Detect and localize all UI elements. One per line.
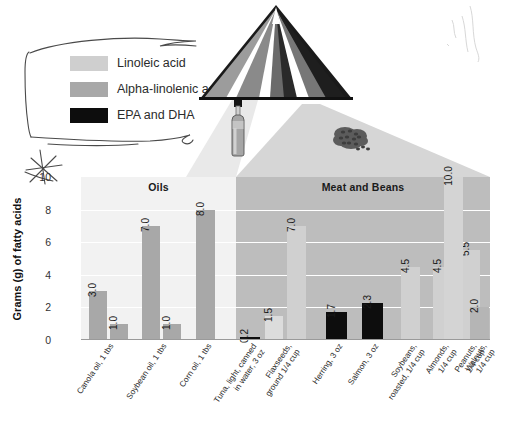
- x-axis-baseline: [81, 339, 490, 340]
- bar: 3.0: [89, 291, 107, 340]
- x-axis-label: Corn oil, 1 tbs: [178, 342, 214, 389]
- bar: 10.0: [444, 177, 463, 340]
- bar-value-label: 3.0: [87, 283, 98, 297]
- bar-value-label: 1.5: [263, 308, 274, 322]
- x-axis-label: Canola oil, 1 tbs: [75, 342, 116, 396]
- bar-value-label: 1.0: [161, 316, 172, 330]
- bar: 1.0: [163, 324, 181, 340]
- bar: 1.7: [326, 312, 347, 340]
- x-axis-label: Salmon, 3 oz: [346, 342, 381, 387]
- bar-value-label: 7.0: [286, 218, 297, 232]
- food-guide-pyramid-icon: [196, 2, 356, 107]
- y-tick-6: 6: [31, 236, 51, 248]
- x-axis-label: Herring, 3 oz: [311, 342, 345, 386]
- bar-value-label: 4.5: [400, 259, 411, 273]
- y-tick-2: 2: [31, 301, 51, 313]
- bar: 8.0: [196, 210, 215, 340]
- bar-value-label: 0.2: [239, 329, 250, 343]
- x-axis-label: Soybean oil, 1 tbs: [125, 342, 169, 401]
- bar-value-label: 7.0: [140, 218, 151, 232]
- bar-value-label: 4.5: [432, 259, 443, 273]
- seeds-cluster-icon: [325, 122, 385, 156]
- bar: 4.5: [401, 267, 420, 340]
- plot-area: Oils Meat and Beans 3.01.07.01.08.00.21.…: [81, 177, 490, 340]
- y-tick-0: 0: [31, 334, 51, 346]
- bar: 7.0: [287, 226, 306, 340]
- x-axis-label: Soybeans, roasted, 1/4 cup: [378, 342, 427, 401]
- y-tick-10: 10: [31, 171, 51, 183]
- x-axis-category-labels: Canola oil, 1 tbsSoybean oil, 1 tbsCorn …: [81, 342, 490, 421]
- figure-root: Linoleic acid Alpha-linolenic acid EPA a…: [0, 0, 506, 421]
- y-axis: Grams (g) of fatty acids 10 8 6 4 2 0: [0, 177, 81, 341]
- y-axis-title: Grams (g) of fatty acids: [11, 184, 23, 334]
- bar-value-label: 1.0: [108, 316, 119, 330]
- y-tick-4: 4: [31, 269, 51, 281]
- bar: 1.0: [110, 324, 128, 340]
- bar: 2.3: [362, 303, 383, 340]
- bar-value-label: 2.0: [469, 299, 480, 313]
- bar: 2.0: [470, 307, 489, 340]
- bar-value-label: 2.3: [362, 295, 373, 309]
- bar-value-label: 1.7: [326, 304, 337, 318]
- bars-layer: 3.01.07.01.08.00.21.57.01.72.34.54.55.51…: [81, 177, 490, 340]
- bar-value-label: 10.0: [443, 166, 454, 185]
- bar-value-label: 8.0: [195, 202, 206, 216]
- oil-bottle-icon: [225, 100, 251, 158]
- bar: 7.0: [142, 226, 160, 340]
- bar: 1.5: [265, 316, 283, 340]
- fatty-acid-bar-chart: Grams (g) of fatty acids 10 8 6 4 2 0 Oi…: [0, 160, 506, 421]
- x-axis-label: Tuna, light, canned in water, 3 oz: [212, 342, 267, 410]
- y-tick-8: 8: [31, 204, 51, 216]
